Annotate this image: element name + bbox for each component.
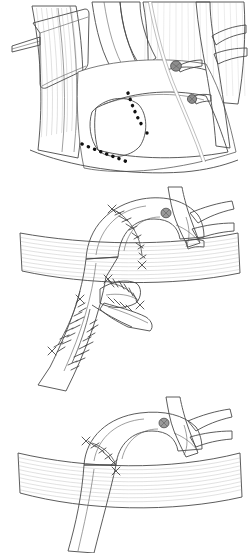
- panel-exposure-and-incision-lines: [0, 0, 248, 185]
- panel-1-canvas: [0, 0, 248, 185]
- suture-line-descending: [48, 291, 98, 370]
- ligature-clip-upper: [171, 61, 182, 71]
- aortic-arch: [86, 198, 204, 259]
- descending-aorta: [68, 465, 116, 553]
- ligature-clip: [159, 418, 169, 428]
- suture-line-arch: [108, 205, 146, 269]
- ligature-clip: [161, 208, 171, 218]
- muscle-band-diaphragm: [18, 233, 242, 283]
- panel-2-canvas: [0, 185, 248, 395]
- panel-3-canvas: [0, 395, 248, 553]
- suture-line-patch: [104, 275, 144, 311]
- panel-anastomosis-with-sutures: [0, 185, 248, 395]
- patch-graft: [92, 281, 152, 331]
- muscle-band-diaphragm: [16, 453, 244, 508]
- surgical-illustration-figure: [0, 0, 248, 553]
- panel-final-repair: [0, 395, 248, 553]
- ligature-clip-lower: [187, 95, 196, 104]
